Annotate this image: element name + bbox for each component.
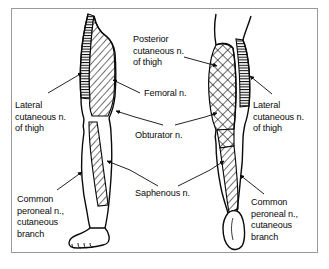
leader-saphenous-left	[107, 161, 158, 186]
leader-obturator-left	[116, 111, 163, 125]
right-leg-figure	[209, 14, 251, 250]
left-lowerleg-outer-outline	[82, 132, 87, 212]
region-left-leg-saphenous	[89, 122, 108, 206]
label-obturator-n: Obturator n.	[135, 130, 182, 140]
left-foot-outline	[69, 228, 109, 248]
anatomy-diagram: Posterior cutaneous n. of thigh Lateral …	[0, 0, 329, 269]
leader-lateral-right	[250, 76, 272, 94]
region-right-leg-saphenous	[220, 146, 238, 212]
region-left-thigh-femoral	[89, 16, 115, 116]
region-right-thigh-posterior	[209, 44, 236, 130]
left-lowerleg-inner-outline	[108, 133, 112, 211]
left-leg-figure	[69, 14, 116, 248]
region-right-leg-crosshatch-upper	[217, 129, 234, 148]
figure-root: Posterior cutaneous n. of thigh Lateral …	[0, 0, 329, 269]
label-saphenous-n: Saphenous n.	[135, 188, 190, 198]
right-foot-outline	[223, 211, 245, 250]
leader-femoral	[113, 80, 140, 93]
leader-common-peroneal-right	[240, 175, 264, 194]
leader-lateral-left	[48, 73, 82, 93]
region-right-thigh-lateral-band	[236, 39, 250, 107]
label-posterior-cutaneous-of-thigh: Posterior cutaneous n. of thigh	[133, 34, 186, 67]
label-lateral-cutaneous-of-thigh-left: Lateral cutaneous n. of thigh	[15, 100, 68, 133]
label-lateral-cutaneous-of-thigh-right: Lateral cutaneous n. of thigh	[253, 100, 306, 133]
label-common-peroneal-right: Common peroneal n., cutaneous branch	[251, 197, 300, 242]
leader-obturator-right	[175, 113, 217, 125]
left-ankle-outline	[87, 211, 108, 228]
label-femoral-n: Femoral n.	[144, 88, 186, 98]
leader-common-peroneal-left	[57, 172, 82, 190]
label-common-peroneal-left: Common peroneal n., cutaneous branch	[17, 194, 66, 239]
